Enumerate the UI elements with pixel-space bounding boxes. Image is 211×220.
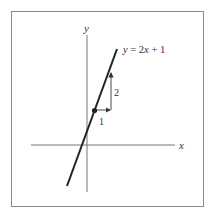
rise-label: 2 (114, 87, 119, 98)
run-label: 1 (99, 116, 104, 127)
y-axis-label: y (83, 22, 89, 34)
x-axis-label: x (178, 139, 184, 151)
graph: y x y = 2x + 1 1 2 (0, 0, 211, 220)
equation-label: y = 2x + 1 (122, 44, 165, 55)
point-marker (92, 108, 97, 113)
graph-line (67, 49, 117, 186)
